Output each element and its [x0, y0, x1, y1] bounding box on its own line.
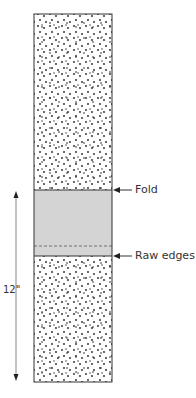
raw-edges-label: Raw edges: [135, 250, 195, 262]
raw-edges-pointer-arrow: [113, 253, 132, 259]
height-dimension-label: 12": [3, 284, 20, 296]
upper-fabric: [34, 14, 112, 190]
lower-fabric: [34, 256, 112, 382]
strip-diagram: [0, 0, 196, 398]
fold-pointer-arrow: [113, 187, 132, 193]
fold-label: Fold: [135, 184, 158, 196]
